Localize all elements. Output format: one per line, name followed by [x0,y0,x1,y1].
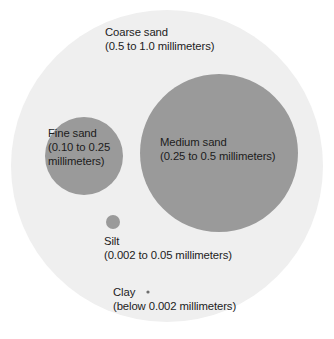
silt-label: Silt (0.002 to 0.05 millimeters) [104,234,232,262]
clay-name: Clay [113,285,236,299]
clay-range: (below 0.002 millimeters) [113,299,236,313]
medium-sand-range: (0.25 to 0.5 millimeters) [160,149,276,163]
coarse-sand-name: Coarse sand [105,25,214,39]
fine-sand-name: Fine sand [48,126,110,140]
coarse-sand-label: Coarse sand (0.5 to 1.0 millimeters) [105,25,214,53]
fine-sand-label: Fine sand (0.10 to 0.25 millimeters) [48,126,110,168]
coarse-sand-range: (0.5 to 1.0 millimeters) [105,39,214,53]
fine-sand-range-line-2: millimeters) [48,154,110,168]
medium-sand-label: Medium sand (0.25 to 0.5 millimeters) [160,135,276,163]
silt-name: Silt [104,234,232,248]
medium-sand-name: Medium sand [160,135,276,149]
silt-range: (0.002 to 0.05 millimeters) [104,248,232,262]
clay-label: Clay (below 0.002 millimeters) [113,285,236,313]
silt-circle [106,215,120,229]
fine-sand-range-line-1: (0.10 to 0.25 [48,140,110,154]
soil-particle-diagram: Coarse sand (0.5 to 1.0 millimeters) Fin… [0,0,334,339]
